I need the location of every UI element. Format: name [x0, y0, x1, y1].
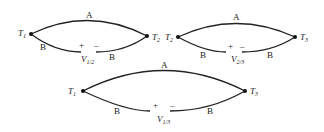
plus-sign: +	[228, 41, 233, 51]
wire-a	[83, 71, 245, 92]
circuit-2-3: T2 T3 A B B + – V2/3	[165, 12, 308, 65]
wire-b-left-label: B	[40, 42, 46, 52]
plus-sign: +	[153, 100, 158, 110]
wire-b-right	[96, 36, 147, 52]
wire-b-right-label: B	[109, 52, 115, 62]
wire-a-label: A	[161, 60, 168, 70]
wire-b-left-label: B	[114, 106, 120, 116]
wire-a	[178, 24, 295, 38]
wire-a-label: A	[233, 12, 240, 22]
terminal-right-label: T3	[250, 86, 258, 97]
minus-sign: –	[93, 40, 99, 50]
wire-a	[31, 20, 147, 36]
wire-a-label: A	[86, 10, 93, 20]
wire-b-right-label: B	[267, 50, 273, 60]
minus-sign: –	[169, 100, 175, 110]
terminal-left-label: T1	[68, 86, 76, 97]
terminal-right-label: T3	[300, 32, 308, 43]
minus-sign: –	[239, 41, 245, 51]
junction-right	[243, 89, 247, 93]
thermocouple-diagrams: T1 T2 A B B + – V1/2 T2 T3 A B B + – V2/…	[0, 0, 324, 132]
wire-b-right-label: B	[207, 106, 213, 116]
voltage-label: V1/2	[81, 54, 94, 65]
circuit-1-3: T1 T3 A B B + – V1/3	[68, 60, 258, 125]
junction-right	[293, 35, 297, 39]
terminal-left-label: T2	[165, 32, 173, 43]
wire-b-left	[31, 34, 81, 52]
voltage-label: V1/3	[157, 114, 170, 125]
junction-right	[145, 34, 149, 38]
plus-sign: +	[79, 40, 84, 50]
voltage-label: V2/3	[231, 54, 244, 65]
wire-b-left-label: B	[200, 50, 206, 60]
terminal-right-label: T2	[152, 32, 160, 43]
junction-left	[81, 89, 85, 93]
circuit-1-2: T1 T2 A B B + – V1/2	[18, 10, 160, 65]
junction-left	[29, 32, 33, 36]
terminal-left-label: T1	[18, 28, 26, 39]
junction-left	[176, 35, 180, 39]
